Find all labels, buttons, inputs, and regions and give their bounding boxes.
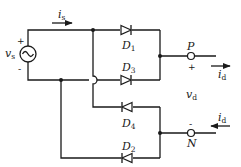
p-sign: +: [188, 62, 196, 72]
source-wires: [28, 30, 160, 80]
ac-source-icon: [20, 46, 36, 62]
is-label: is: [58, 8, 66, 22]
terminal-p: [188, 53, 195, 60]
source-minus: -: [18, 64, 21, 74]
diode-d4-icon: [121, 102, 133, 112]
diode-d1-icon: [120, 25, 132, 35]
source-plus: +: [17, 36, 25, 46]
junction-dots: [59, 28, 162, 135]
id-top-label: id: [218, 68, 227, 82]
id-bottom-label: id: [218, 111, 227, 125]
diode-d2-icon: [121, 153, 133, 163]
d3-label: D3: [121, 61, 136, 75]
p-label: P: [186, 40, 195, 53]
d1-label: D1: [121, 39, 136, 53]
n-label: N: [186, 137, 197, 150]
d2-label: D2: [121, 140, 136, 154]
lower-wire: [61, 80, 160, 158]
terminal-n: [188, 130, 195, 137]
d4-label: D4: [121, 117, 136, 131]
source-label: vs: [5, 47, 15, 61]
rectifier-circuit: vs + - is D1 D3 D4 D2 P + N - vd id id: [0, 0, 241, 167]
n-sign: -: [189, 119, 192, 129]
diode-d3-icon: [120, 75, 132, 85]
vd-label: vd: [186, 88, 197, 102]
